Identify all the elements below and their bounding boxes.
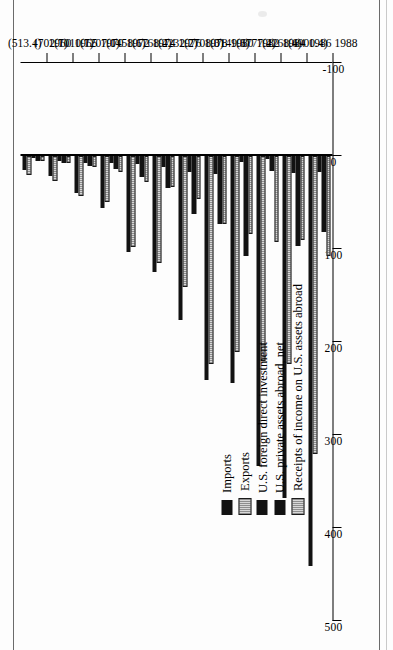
value-axis-label: 400: [324, 528, 342, 540]
bar-receipts-of-income-on-u-s-assets-abroad: [300, 156, 305, 240]
legend-item-assets: U.S. private assets abroad, net: [273, 284, 286, 515]
bar-imports: [204, 156, 209, 380]
legend-label-fdi: U.S. foreign direct investment: [256, 342, 269, 493]
bar-receipts-of-income-on-u-s-assets-abroad: [170, 156, 175, 187]
bar-u-s-foreign-direct-investment: [135, 156, 140, 164]
category-axis-tick: [254, 53, 255, 62]
bar-u-s-private-assets-abroad-net: [61, 156, 66, 163]
category-axis-tick: [72, 53, 73, 62]
bar-receipts-of-income-on-u-s-assets-abroad: [274, 156, 279, 242]
bar-u-s-private-assets-abroad-net: [243, 156, 248, 256]
category-axis-tick: [124, 53, 125, 62]
bar-u-s-private-assets-abroad-net: [139, 156, 144, 177]
legend-label-receipts: Receipts of income on U.S. assets abroad: [291, 284, 304, 491]
category-year: 1988: [334, 37, 357, 49]
bar-u-s-private-assets-abroad-net: [35, 156, 40, 161]
category-axis-tick: [202, 53, 203, 62]
bar-exports: [52, 156, 57, 181]
bar-u-s-private-assets-abroad-net: [217, 156, 222, 224]
category-axis-tick: [98, 53, 99, 62]
category-axis-tick: [176, 53, 177, 62]
bar-u-s-private-assets-abroad-net: [295, 156, 300, 246]
bar-receipts-of-income-on-u-s-assets-abroad: [248, 156, 253, 234]
legend-item-receipts: Receipts of income on U.S. assets abroad: [291, 284, 304, 515]
bar-imports: [126, 156, 131, 252]
bar-u-s-private-assets-abroad-net: [87, 156, 92, 166]
bar-imports: [308, 156, 313, 566]
bar-u-s-foreign-direct-investment: [265, 156, 270, 159]
bar-exports: [156, 156, 161, 263]
value-axis-label: -100: [322, 63, 344, 75]
bar-u-s-foreign-direct-investment: [239, 156, 244, 162]
bar-u-s-foreign-direct-investment: [109, 156, 114, 163]
bar-u-s-foreign-direct-investment: [83, 156, 88, 163]
bar-exports: [26, 156, 31, 175]
bar-imports: [74, 156, 79, 193]
legend-swatch-receipts: [291, 498, 304, 515]
bar-u-s-foreign-direct-investment: [213, 156, 218, 174]
category-axis-tick: [46, 53, 47, 62]
bar-chart: 5004003002001000-100(513.4)1960(702.7)19…: [14, 15, 379, 635]
bar-exports: [208, 156, 213, 364]
rotated-figure-stage: 5004003002001000-100(513.4)1960(702.7)19…: [14, 15, 379, 635]
bar-u-s-private-assets-abroad-net: [113, 156, 118, 169]
category-total: (4900.4): [288, 37, 327, 49]
bar-exports: [130, 156, 135, 247]
bar-u-s-private-assets-abroad-net: [321, 156, 326, 232]
value-axis-label: 300: [324, 435, 342, 447]
bar-receipts-of-income-on-u-s-assets-abroad: [222, 156, 227, 224]
bar-receipts-of-income-on-u-s-assets-abroad: [66, 156, 71, 163]
bar-exports: [312, 156, 317, 454]
bar-imports: [48, 156, 53, 176]
bar-receipts-of-income-on-u-s-assets-abroad: [144, 156, 149, 182]
legend-swatch-assets: [274, 500, 285, 515]
bar-receipts-of-income-on-u-s-assets-abroad: [92, 156, 97, 167]
legend-label-exports: Exports: [238, 452, 251, 491]
legend-label-assets: U.S. private assets abroad, net: [273, 342, 286, 493]
legend-item-exports: Exports: [238, 284, 251, 515]
bar-u-s-foreign-direct-investment: [187, 156, 192, 172]
legend-label-imports: Imports: [220, 454, 233, 493]
value-axis-label: 200: [324, 342, 342, 354]
bar-imports: [22, 156, 27, 170]
legend-swatch-exports: [238, 498, 251, 515]
category-axis-tick: [306, 53, 307, 62]
bar-u-s-foreign-direct-investment: [57, 156, 62, 161]
category-axis-tick: [332, 53, 333, 62]
bar-imports: [178, 156, 183, 320]
bar-u-s-foreign-direct-investment: [31, 156, 36, 158]
legend-item-imports: Imports: [220, 284, 233, 515]
legend-swatch-imports: [221, 500, 232, 515]
bar-exports: [78, 156, 83, 196]
bar-u-s-foreign-direct-investment: [291, 156, 296, 173]
legend-swatch-fdi: [256, 500, 267, 515]
bar-u-s-private-assets-abroad-net: [191, 156, 196, 214]
bar-receipts-of-income-on-u-s-assets-abroad: [118, 156, 123, 172]
bar-receipts-of-income-on-u-s-assets-abroad: [326, 156, 331, 256]
bar-exports: [104, 156, 109, 202]
category-axis-tick: [280, 53, 281, 62]
category-axis-label: (4900.4)1988: [288, 37, 357, 49]
bar-exports: [182, 156, 187, 287]
category-axis-spine: [20, 62, 332, 63]
page-canvas: 5004003002001000-100(513.4)1960(702.7)19…: [0, 0, 393, 650]
bar-u-s-private-assets-abroad-net: [165, 156, 170, 188]
bar-u-s-foreign-direct-investment: [161, 156, 166, 167]
category-axis-tick: [228, 53, 229, 62]
bar-receipts-of-income-on-u-s-assets-abroad: [196, 156, 201, 199]
page-rule-inner-right: [386, 0, 387, 650]
chart-legend: ImportsExportsU.S. foreign direct invest…: [220, 284, 304, 515]
bar-imports: [152, 156, 157, 272]
legend-item-fdi: U.S. foreign direct investment: [256, 284, 269, 515]
value-axis-label: 500: [324, 621, 342, 633]
category-axis-tick: [150, 53, 151, 62]
bar-u-s-private-assets-abroad-net: [269, 156, 274, 171]
bar-receipts-of-income-on-u-s-assets-abroad: [40, 156, 45, 161]
bar-imports: [100, 156, 105, 208]
bar-u-s-foreign-direct-investment: [317, 156, 322, 172]
